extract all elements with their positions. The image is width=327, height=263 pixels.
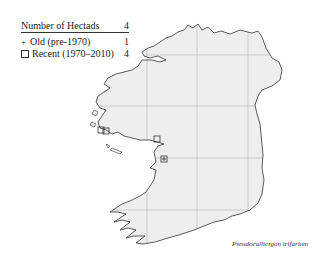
ireland-map [0,0,327,263]
species-label: Pseudocalliergon trifarium [232,240,308,248]
land-area [96,24,282,244]
